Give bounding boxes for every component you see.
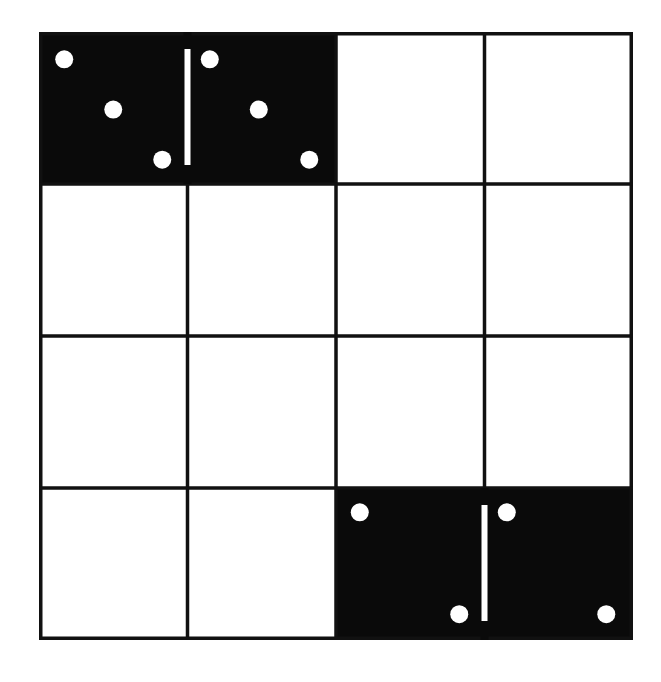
- domino-divider: [482, 505, 488, 621]
- grid-cell-r2-c2[interactable]: [336, 336, 485, 488]
- grid-cell-r2-c3[interactable]: [485, 336, 634, 488]
- pip-icon: [55, 50, 73, 68]
- pip-icon: [104, 101, 122, 119]
- grid-cell-r2-c1[interactable]: [188, 336, 337, 488]
- domino-2-2-overlay: [481, 488, 489, 640]
- pip-icon: [597, 605, 615, 623]
- domino-grid-board: [39, 32, 633, 640]
- grid-cell-r2-c0[interactable]: [39, 336, 188, 488]
- domino-divider: [185, 49, 191, 165]
- grid-cell-r3-c1[interactable]: [188, 488, 337, 640]
- pip-icon: [351, 503, 369, 521]
- domino-3-3-overlay: [184, 32, 192, 184]
- grid-canvas: [39, 32, 633, 640]
- pip-icon: [201, 50, 219, 68]
- pip-icon: [498, 503, 516, 521]
- pip-icon: [250, 101, 268, 119]
- grid-cell-r0-c3[interactable]: [485, 32, 634, 184]
- pip-icon: [300, 151, 318, 169]
- grid-cell-r1-c0[interactable]: [39, 184, 188, 336]
- pip-icon: [153, 151, 171, 169]
- grid-cell-r3-c0[interactable]: [39, 488, 188, 640]
- grid-cell-r1-c2[interactable]: [336, 184, 485, 336]
- pip-icon: [450, 605, 468, 623]
- grid-cell-r0-c2[interactable]: [336, 32, 485, 184]
- grid-cell-r1-c1[interactable]: [188, 184, 337, 336]
- grid-cell-r1-c3[interactable]: [485, 184, 634, 336]
